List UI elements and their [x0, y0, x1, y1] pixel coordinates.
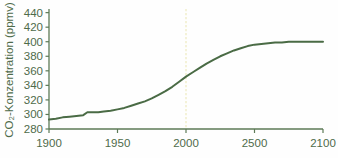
x-tick-label: 2500 — [242, 137, 268, 149]
x-tick-label: 2100 — [310, 137, 336, 149]
y-axis-title: CO₂-Konzentration (ppmv) — [3, 2, 15, 138]
y-tick-label: 280 — [24, 123, 43, 135]
y-tick-label: 360 — [24, 65, 43, 77]
x-tick-label: 1950 — [105, 137, 131, 149]
y-tick-label: 380 — [24, 50, 43, 62]
y-tick-label: 440 — [24, 7, 43, 19]
y-tick-label: 320 — [24, 94, 43, 106]
co2-concentration-chart-figure: CO₂-Konzentration (ppmv) 280300320340360… — [0, 0, 338, 158]
y-tick-label: 300 — [24, 108, 43, 120]
chart-canvas: CO₂-Konzentration (ppmv) 280300320340360… — [0, 0, 338, 158]
y-tick-label: 340 — [24, 79, 43, 91]
x-tick-label: 1900 — [36, 137, 62, 149]
chart-background — [0, 0, 338, 158]
x-tick-label: 2000 — [173, 137, 199, 149]
y-tick-label: 400 — [24, 36, 43, 48]
y-tick-label-group: 280300320340360380400420440 — [24, 7, 43, 135]
y-tick-label: 420 — [24, 21, 43, 33]
